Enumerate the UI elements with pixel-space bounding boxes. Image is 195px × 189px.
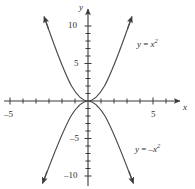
curve-label-lower-base: –x — [149, 144, 158, 154]
curve-label-y-equals-x-squared: y = x2 — [137, 38, 158, 49]
y-tick-label-5: 5 — [74, 59, 79, 68]
plot-canvas — [0, 0, 195, 189]
x-tick-label-5: 5 — [151, 110, 156, 119]
x-tick-label-minus-5: –5 — [4, 110, 13, 119]
curve-label-lower-exponent: 2 — [157, 142, 160, 149]
x-axis-label: x — [183, 103, 187, 112]
curve-label-upper-operator: = — [141, 39, 151, 49]
y-tick-label-minus-10: –10 — [64, 171, 78, 180]
x-axis — [4, 98, 180, 105]
curve-label-y-equals-negative-x-squared: y = –x2 — [135, 143, 160, 154]
y-tick-label-minus-5: –5 — [70, 134, 79, 143]
y-axis — [85, 9, 92, 186]
curve-label-upper-exponent: 2 — [155, 37, 158, 44]
parabola-figure: x y –5 5 10 5 –5 –10 y = x2 y = –x2 — [0, 0, 195, 189]
y-axis-label: y — [79, 3, 83, 12]
y-tick-label-10: 10 — [68, 21, 77, 30]
curve-label-lower-operator: = — [139, 144, 149, 154]
